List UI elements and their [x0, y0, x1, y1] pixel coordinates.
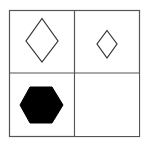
cell-bottom-right-empty — [76, 74, 140, 136]
puzzle-stage — [0, 0, 147, 146]
puzzle-grid — [0, 0, 147, 146]
